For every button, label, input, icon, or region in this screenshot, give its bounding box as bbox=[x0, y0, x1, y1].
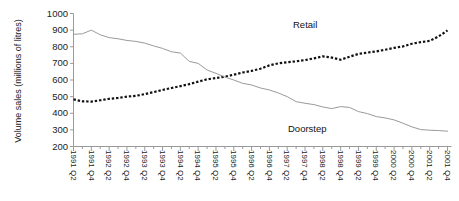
x-tick-label: 1994 Q2 bbox=[176, 150, 184, 201]
x-tick-label: 2000 Q2 bbox=[389, 150, 397, 201]
x-tick-label: 1991 Q2 bbox=[69, 150, 77, 201]
x-tick-label: 1996 Q4 bbox=[265, 150, 273, 201]
series-label-doorstep: Doorstep bbox=[288, 123, 327, 134]
x-tick-label: 1998 Q4 bbox=[336, 150, 344, 201]
x-tick-label: 1997 Q4 bbox=[300, 150, 308, 201]
x-tick-label: 1991 Q4 bbox=[87, 150, 95, 201]
series-label-retail: Retail bbox=[293, 19, 317, 30]
x-tick-label: 1993 Q4 bbox=[158, 150, 166, 201]
x-tick-label: 2001 Q2 bbox=[425, 150, 433, 201]
x-tick-label: 1994 Q4 bbox=[193, 150, 201, 201]
x-tick-label: 1992 Q4 bbox=[122, 150, 130, 201]
x-tick-label: 1995 Q4 bbox=[229, 150, 237, 201]
x-tick-label: 2001 Q4 bbox=[443, 150, 451, 201]
x-tick-label: 1992 Q2 bbox=[104, 150, 112, 201]
x-tick-label: 1993 Q2 bbox=[140, 150, 148, 201]
volume-sales-line-chart: Volume sales (millions of litres) 100090… bbox=[0, 0, 459, 201]
x-tick-label: 1998 Q2 bbox=[318, 150, 326, 201]
x-tick-label: 2000 Q4 bbox=[407, 150, 415, 201]
x-tick-label: 1995 Q2 bbox=[211, 150, 219, 201]
x-axis-tick-labels: 1991 Q21991 Q41992 Q21992 Q41993 Q21993 … bbox=[0, 0, 459, 201]
x-tick-label: 1996 Q2 bbox=[247, 150, 255, 201]
x-tick-label: 1997 Q2 bbox=[282, 150, 290, 201]
x-tick-label: 1999 Q4 bbox=[371, 150, 379, 201]
x-tick-label: 1999 Q2 bbox=[354, 150, 362, 201]
